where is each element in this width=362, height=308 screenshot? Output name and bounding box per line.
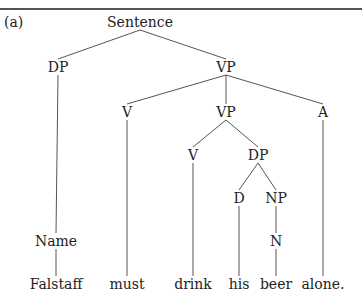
node-dp1: DP [48,60,69,74]
edge-s-vp1 [140,30,226,59]
node-name: Name [35,234,77,248]
word-w1: Falstaff [30,277,83,291]
word-w6: alone. [301,277,344,291]
edge-vp2-v2 [193,120,226,147]
node-d: D [233,191,244,205]
node-s: Sentence [107,15,173,29]
node-v2: V [188,148,198,162]
edge-vp1-v1 [127,75,226,104]
node-v1: V [122,105,132,119]
edge-dp2-np [258,163,276,190]
node-n: N [270,234,282,248]
word-w3: drink [174,277,212,291]
word-w2: must [109,277,144,291]
edge-vp1-a [226,75,323,104]
edge-vp2-dp2 [226,120,258,147]
node-a: A [318,105,328,119]
node-vp2: VP [216,105,236,119]
edge-dp1-name [56,75,58,233]
tree-edges [0,0,362,308]
edge-s-dp1 [58,30,140,59]
node-dp2: DP [248,148,269,162]
node-np: NP [265,191,287,205]
word-w4: his [229,277,250,291]
edge-dp2-d [239,163,258,190]
word-w5: beer [260,277,292,291]
node-vp1: VP [216,60,236,74]
